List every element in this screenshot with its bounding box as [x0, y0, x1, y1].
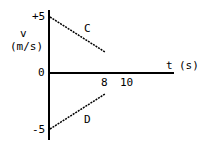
line-c — [50, 17, 105, 52]
x-label-units: (s) — [179, 60, 199, 71]
x-label-t: t — [166, 60, 173, 71]
y-label-v: v — [20, 28, 27, 39]
line-d — [50, 94, 105, 129]
y-tick-zero: 0 — [38, 67, 45, 78]
x-tick-8: 8 — [101, 77, 108, 88]
series-label-d: D — [84, 114, 91, 125]
x-tick-10: 10 — [120, 77, 133, 88]
y-label-units: (m/s) — [10, 41, 43, 52]
series-label-c: C — [84, 23, 91, 34]
chart-canvas — [0, 0, 203, 146]
y-tick-minus5: -5 — [32, 124, 45, 135]
y-tick-plus5: +5 — [32, 11, 45, 22]
